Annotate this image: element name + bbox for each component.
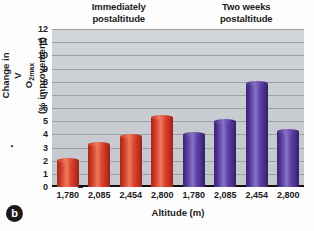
bar-2,085-purple: [214, 121, 236, 187]
bar-2,800-red: [151, 117, 173, 187]
y-tick-label-11: 11: [38, 38, 48, 47]
bar-2,454-purple: [246, 84, 268, 187]
bar-1,780-purple: [183, 134, 205, 187]
y-tick-label-1: 1: [43, 169, 48, 178]
x-tick-label-4: 1,780: [178, 190, 210, 200]
y-tick-mark-0: [78, 187, 83, 188]
x-tick-label-6: 2,454: [241, 190, 273, 200]
y-tick-label-12: 12: [38, 25, 48, 34]
x-tick-label-5: 2,085: [210, 190, 242, 200]
bar-slot: [178, 29, 210, 187]
x-tick-label-2: 2,454: [115, 190, 147, 200]
y-tick-label-3: 3: [43, 143, 48, 152]
x-tick-label-7: 2,800: [273, 190, 305, 200]
bar-series: [52, 29, 304, 187]
plot-area: [52, 29, 304, 187]
bar-1,780-red: [57, 161, 79, 187]
bar-slot: [84, 29, 116, 187]
x-axis-label: Altitude (m): [52, 207, 304, 218]
y-tick-label-5: 5: [43, 117, 48, 126]
group-header-two-weeks-line2: postaltitude: [183, 13, 311, 25]
group-header-two-weeks: Two weeks postaltitude: [183, 1, 311, 29]
y-tick-label-6: 6: [43, 104, 48, 113]
bar-cap: [88, 142, 110, 147]
group-header-immediately-line2: postaltitude: [55, 13, 183, 25]
bar-cap: [57, 158, 79, 163]
bar-cap: [214, 119, 236, 124]
y-tick-label-4: 4: [43, 130, 48, 139]
x-axis-tick-labels: 1,7802,0852,4542,8001,7802,0852,4542,800: [52, 190, 304, 200]
bar-2,085-red: [88, 145, 110, 187]
bar-slot: [52, 29, 84, 187]
y-tick-label-0: 0: [43, 183, 48, 192]
plot-area-wrapper: [52, 29, 304, 187]
x-tick-label-3: 2,800: [147, 190, 179, 200]
group-header-two-weeks-line1: Two weeks: [183, 1, 311, 13]
bar-cap: [246, 81, 268, 86]
bar-slot: [147, 29, 179, 187]
group-headers: Immediately postaltitude Two weeks posta…: [55, 1, 310, 29]
bar-cap: [277, 129, 299, 134]
y-tick-label-9: 9: [43, 64, 48, 73]
bar-cap: [183, 132, 205, 137]
bar-2,800-purple: [277, 131, 299, 187]
panel-letter-badge: b: [6, 205, 23, 222]
y-axis-ticks: 0123456789101112: [30, 29, 52, 187]
y-tick-label-8: 8: [43, 77, 48, 86]
bar-cap: [151, 115, 173, 120]
bar-cap: [120, 134, 142, 139]
bar-slot: [115, 29, 147, 187]
y-tick-label-10: 10: [38, 51, 48, 60]
figure-panel: Immediately postaltitude Two weeks posta…: [0, 0, 314, 231]
y-tick-label-7: 7: [43, 90, 48, 99]
x-tick-label-1: 2,085: [84, 190, 116, 200]
group-header-immediately-line1: Immediately: [55, 1, 183, 13]
group-header-immediately: Immediately postaltitude: [55, 1, 183, 29]
bar-slot: [210, 29, 242, 187]
bar-slot: [241, 29, 273, 187]
bar-slot: [273, 29, 305, 187]
x-tick-label-0: 1,780: [52, 190, 84, 200]
y-tick-label-2: 2: [43, 156, 48, 165]
bar-2,454-red: [120, 137, 142, 187]
